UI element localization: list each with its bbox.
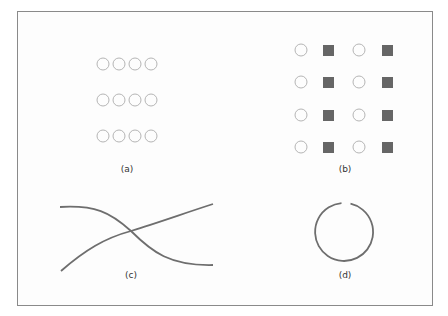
panel-c-curves [60,204,213,271]
panel-a-grid [97,58,157,142]
hollow-circle-icon [129,94,141,106]
hollow-circle-icon [145,130,157,142]
open-circle-icon [315,203,373,261]
hollow-circle-icon [113,58,125,70]
hollow-circle-icon [129,58,141,70]
figure-canvas [0,0,448,316]
filled-square-icon [382,110,393,121]
descending-curve [60,207,213,265]
panel-d-label: (d) [339,270,352,280]
hollow-circle-icon [145,58,157,70]
hollow-circle-icon [97,130,109,142]
hollow-circle-icon [97,58,109,70]
hollow-circle-icon [145,94,157,106]
hollow-circle-icon [295,141,307,153]
filled-square-icon [382,142,393,153]
hollow-circle-icon [129,130,141,142]
filled-square-icon [323,142,334,153]
hollow-circle-icon [295,109,307,121]
filled-square-icon [382,45,393,56]
hollow-circle-icon [295,44,307,56]
panel-c-label: (c) [125,270,137,280]
filled-square-icon [323,110,334,121]
filled-square-icon [382,77,393,88]
panel-b-label: (b) [339,164,352,174]
hollow-circle-icon [353,141,365,153]
hollow-circle-icon [353,76,365,88]
filled-square-icon [323,77,334,88]
hollow-circle-icon [353,44,365,56]
hollow-circle-icon [113,130,125,142]
hollow-circle-icon [113,94,125,106]
panel-b-grid [295,44,393,153]
hollow-circle-icon [97,94,109,106]
panel-a-label: (a) [121,164,134,174]
filled-square-icon [323,45,334,56]
hollow-circle-icon [295,76,307,88]
hollow-circle-icon [353,109,365,121]
